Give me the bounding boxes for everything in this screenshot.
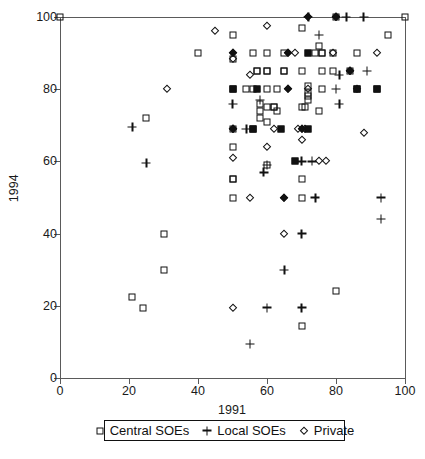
data-point-overlap <box>274 86 281 93</box>
data-point-local-soes <box>259 168 268 177</box>
data-point-local-soes <box>376 193 385 202</box>
data-point-central-soes <box>264 50 271 57</box>
data-point-private <box>228 153 237 162</box>
legend-label: Private <box>314 424 354 437</box>
data-point-overlap <box>229 176 236 183</box>
data-point-local-soes <box>335 99 344 108</box>
y-tick-label-0: 0 <box>17 372 57 385</box>
data-point-local-soes <box>263 303 272 312</box>
data-point-local-soes <box>245 339 254 348</box>
data-point-central-soes <box>305 97 312 104</box>
plus-icon <box>202 426 212 436</box>
data-point-central-soes <box>298 176 305 183</box>
open-square-icon <box>95 426 105 436</box>
y-tick-label-40: 40 <box>17 228 57 241</box>
data-point-central-soes <box>384 32 391 39</box>
data-point-overlap <box>319 50 326 57</box>
legend-entry-central-soes[interactable]: Central SOEs <box>95 424 189 437</box>
data-point-central-soes <box>264 118 271 125</box>
data-point-overlap <box>305 50 312 57</box>
top-spine <box>60 17 405 18</box>
data-point-private <box>280 229 289 238</box>
data-point-central-soes <box>229 32 236 39</box>
data-point-central-soes <box>298 322 305 329</box>
x-tick-label-100: 100 <box>385 385 425 398</box>
data-point-private <box>245 193 254 202</box>
data-point-local-soes <box>359 13 368 22</box>
data-point-overlap <box>374 86 381 93</box>
legend-entry-private[interactable]: Private <box>299 424 354 437</box>
right-spine <box>405 17 406 378</box>
data-point-central-soes <box>139 304 146 311</box>
data-point-local-soes <box>335 70 344 79</box>
x-tick-label-0: 0 <box>40 385 80 398</box>
data-point-overlap <box>298 194 305 201</box>
data-point-local-soes <box>128 123 137 132</box>
data-point-local-soes <box>314 31 323 40</box>
data-point-central-soes <box>250 50 257 57</box>
data-point-private <box>359 128 368 137</box>
data-point-private <box>228 303 237 312</box>
x-tick-label-40: 40 <box>178 385 218 398</box>
data-point-central-soes <box>298 68 305 75</box>
data-point-central-soes <box>298 24 305 31</box>
data-point-central-soes <box>264 86 271 93</box>
data-point-private <box>297 135 306 144</box>
y-axis-line <box>60 17 61 378</box>
data-point-local-soes <box>256 96 265 105</box>
y-tick-label-100: 100 <box>17 11 57 24</box>
data-point-central-soes <box>315 42 322 49</box>
data-point-overlap <box>280 193 289 202</box>
y-tick-label-60: 60 <box>17 155 57 168</box>
data-point-central-soes <box>402 14 409 21</box>
y-tick-label-20: 20 <box>17 300 57 313</box>
x-tick-label-80: 80 <box>316 385 356 398</box>
x-tick-label-60: 60 <box>247 385 287 398</box>
data-point-central-soes <box>57 14 64 21</box>
data-point-overlap <box>277 125 284 132</box>
data-point-local-soes <box>228 99 237 108</box>
legend-entry-local-soes[interactable]: Local SOEs <box>202 424 286 437</box>
x-axis-line <box>60 378 405 379</box>
data-point-central-soes <box>143 115 150 122</box>
data-point-central-soes <box>229 194 236 201</box>
data-point-private <box>321 157 330 166</box>
data-point-central-soes <box>160 230 167 237</box>
data-point-private <box>162 85 171 94</box>
data-point-central-soes <box>129 293 136 300</box>
data-point-central-soes <box>195 50 202 57</box>
data-point-overlap <box>353 86 360 93</box>
legend-label: Local SOEs <box>217 424 286 437</box>
data-point-central-soes <box>319 86 326 93</box>
legend-label: Central SOEs <box>110 424 189 437</box>
x-tick-label-20: 20 <box>109 385 149 398</box>
data-point-overlap <box>281 68 288 75</box>
y-axis-label: 1994 <box>8 158 21 218</box>
scatter-chart: 020406080100020406080100 1994 1991 Centr… <box>0 0 425 459</box>
data-point-local-soes <box>332 85 341 94</box>
data-point-private <box>262 21 271 30</box>
data-point-overlap <box>229 86 236 93</box>
data-point-central-soes <box>229 143 236 150</box>
data-point-overlap <box>264 162 271 169</box>
data-point-local-soes <box>297 303 306 312</box>
chart-legend: Central SOEsLocal SOEsPrivate <box>104 420 345 441</box>
data-point-overlap <box>250 125 257 132</box>
data-point-overlap <box>253 68 260 75</box>
data-point-local-soes <box>311 193 320 202</box>
y-tick-label-80: 80 <box>17 83 57 96</box>
data-point-overlap <box>305 125 312 132</box>
figure-caption <box>8 450 368 459</box>
data-point-central-soes <box>319 68 326 75</box>
data-point-local-soes <box>280 265 289 274</box>
data-point-local-soes <box>376 215 385 224</box>
data-point-local-soes <box>342 13 351 22</box>
data-point-overlap <box>264 68 271 75</box>
data-point-local-soes <box>363 67 372 76</box>
data-point-central-soes <box>301 104 308 111</box>
open-diamond-icon <box>299 426 309 436</box>
data-point-overlap <box>270 104 277 111</box>
data-point-central-soes <box>353 50 360 57</box>
data-point-private <box>262 142 271 151</box>
data-point-overlap <box>253 86 260 93</box>
